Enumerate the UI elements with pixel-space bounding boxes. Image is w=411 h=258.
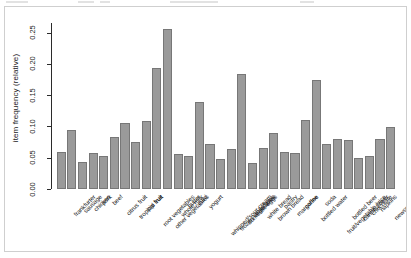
x-axis-labels: frankfurtersausagechickenporkbeefcitrus … — [5, 7, 407, 252]
chart-panel: item frequency (relative) 0.000.050.100.… — [4, 6, 407, 252]
artifact-strip — [78, 1, 94, 3]
x-axis-label: beef — [110, 193, 123, 206]
artifact-strip — [170, 1, 218, 3]
artifact-strip — [6, 1, 28, 3]
artifact-strip — [300, 1, 314, 3]
x-axis-label: yogurt — [207, 193, 224, 210]
x-axis-label: pip fruit — [144, 193, 163, 212]
artifact-strip — [100, 1, 110, 3]
x-axis-label: coffee — [303, 193, 320, 210]
